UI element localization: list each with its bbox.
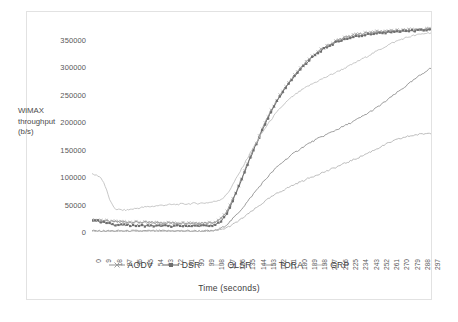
- chart-figure: WiMAX throughput (b/s) 05000010000015000…: [0, 0, 458, 322]
- y-axis-tick-label: 200000: [60, 118, 86, 127]
- y-axis-tick-label: 300000: [60, 63, 86, 72]
- legend-label: GRP: [330, 260, 349, 270]
- x-axis-title: Time (seconds): [26, 283, 432, 293]
- legend-item-grp[interactable]: GRP: [313, 260, 349, 270]
- y-axis-tick-label: 100000: [60, 173, 86, 182]
- legend-marker-dsr-icon: [163, 261, 179, 269]
- legend-marker-olsr-icon: [210, 261, 224, 269]
- plot-area: [92, 26, 431, 232]
- y-axis-tick-label: 0: [82, 228, 86, 237]
- y-axis-tick-label: 250000: [60, 90, 86, 99]
- x-axis-tick-labels: 0918273645546372819099108117126135144153…: [92, 233, 431, 261]
- y-axis-tick-label: 350000: [60, 35, 86, 44]
- legend-label: TORA: [279, 260, 304, 270]
- y-axis-tick-label: 150000: [60, 145, 86, 154]
- chart-legend: AODVDSROLSRTORAGRP: [26, 260, 432, 270]
- legend-item-tora[interactable]: TORA: [262, 260, 304, 270]
- series-canvas: [92, 26, 431, 232]
- legend-label: OLSR: [227, 260, 251, 270]
- legend-marker-grp-icon: [313, 261, 327, 269]
- legend-label: DSR: [182, 260, 201, 270]
- x-axis-tick-label: 297: [434, 259, 441, 270]
- series-line-aodv: [92, 28, 431, 224]
- legend-marker-tora-icon: [262, 261, 276, 269]
- legend-label: AODV: [128, 260, 153, 270]
- legend-item-aodv[interactable]: AODV: [109, 260, 153, 270]
- legend-item-olsr[interactable]: OLSR: [210, 260, 251, 270]
- legend-marker-aodv-icon: [109, 261, 125, 269]
- series-line-grp: [92, 133, 431, 232]
- y-axis-tick-labels: 0500001000001500002000002500003000003500…: [26, 11, 92, 300]
- y-axis-tick-label: 50000: [65, 200, 86, 209]
- legend-item-dsr[interactable]: DSR: [163, 260, 201, 270]
- series-markers-aodv: [92, 27, 431, 225]
- cropped-header-text: [96, 0, 216, 7]
